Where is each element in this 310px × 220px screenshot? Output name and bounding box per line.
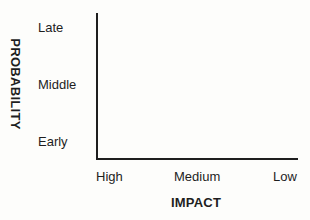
x-axis-title: IMPACT — [171, 195, 221, 210]
x-tick-medium: Medium — [174, 169, 220, 185]
y-axis-line — [96, 13, 98, 160]
x-axis-line — [96, 158, 298, 160]
y-tick-late: Late — [38, 20, 63, 36]
x-tick-low: Low — [273, 169, 297, 185]
y-tick-early: Early — [38, 134, 68, 150]
y-tick-middle: Middle — [38, 77, 76, 93]
y-axis-title: PROBABILITY — [8, 38, 23, 129]
x-tick-high: High — [96, 169, 123, 185]
